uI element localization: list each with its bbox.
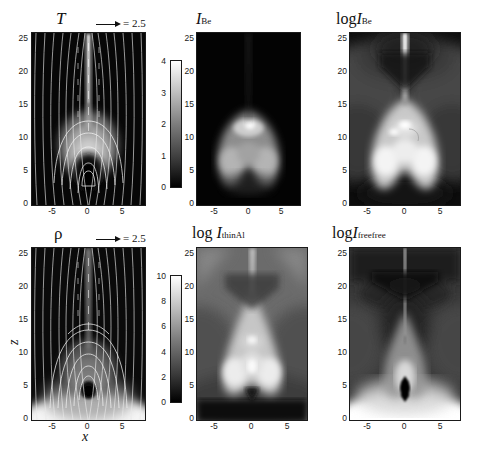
xtick-log-intensity-freefree-m5: -5 (357, 421, 377, 431)
xtick-intensity-be-5: 5 (271, 206, 291, 216)
panel-title-temperature: T (56, 9, 65, 29)
cbtick-density-10: 10 (145, 271, 166, 281)
vector-key-temperature: = 2.5 (96, 17, 146, 29)
cbtick-temperature-0: 0 (150, 182, 166, 192)
ytick-temperature-25: 25 (8, 33, 28, 43)
panel-title-log-intensity-freefree: logIfreefree (332, 224, 386, 242)
ytick-log-intensity-thinal-15: 15 (174, 314, 194, 324)
ytick-log-intensity-be-15: 15 (327, 99, 347, 109)
ytick-log-intensity-freefree-5: 5 (327, 380, 347, 390)
xtick-intensity-be-m5: -5 (204, 206, 224, 216)
plot-area-log-intensity-be (349, 32, 461, 206)
ytick-intensity-be-0: 0 (174, 198, 194, 208)
ytick-temperature-10: 10 (8, 132, 28, 142)
ytick-log-intensity-be-25: 25 (327, 33, 347, 43)
xtick-density-m5: -5 (42, 421, 62, 431)
ytick-intensity-be-5: 5 (174, 165, 194, 175)
plot-area-density (31, 247, 146, 421)
xtick-log-intensity-freefree-5: 5 (430, 421, 450, 431)
vector-key-density: = 2.5 (96, 232, 146, 244)
xtick-temperature-0: 0 (77, 206, 97, 216)
xtick-temperature-5: 5 (112, 206, 132, 216)
ytick-log-intensity-be-5: 5 (327, 165, 347, 175)
xtick-log-intensity-thinal-5: 5 (277, 421, 297, 431)
xtick-density-5: 5 (112, 421, 132, 431)
cbtick-density-0: 0 (148, 397, 166, 407)
ytick-temperature-20: 20 (8, 66, 28, 76)
ytick-log-intensity-thinal-10: 10 (174, 347, 194, 357)
ytick-log-intensity-freefree-25: 25 (327, 248, 347, 258)
ytick-density-0: 0 (8, 413, 28, 423)
ytick-log-intensity-thinal-0: 0 (174, 413, 194, 423)
ytick-density-25: 25 (8, 248, 28, 258)
ytick-temperature-15: 15 (8, 99, 28, 109)
cbtick-temperature-2: 2 (150, 119, 166, 129)
cbtick-temperature-3: 3 (150, 88, 166, 98)
plot-area-log-intensity-freefree (349, 247, 461, 421)
ytick-log-intensity-freefree-10: 10 (327, 347, 347, 357)
ytick-log-intensity-be-0: 0 (327, 198, 347, 208)
arrow-icon (96, 21, 122, 28)
ytick-density-15: 15 (8, 314, 28, 324)
xtick-intensity-be-0: 0 (238, 206, 258, 216)
ytick-log-intensity-thinal-20: 20 (174, 281, 194, 291)
cbtick-temperature-4: 4 (150, 56, 166, 66)
ytick-log-intensity-freefree-0: 0 (327, 413, 347, 423)
ytick-temperature-5: 5 (8, 165, 28, 175)
xtick-log-intensity-thinal-0: 0 (241, 421, 261, 431)
cbtick-density-6: 6 (148, 321, 166, 331)
xtick-log-intensity-be-0: 0 (394, 206, 414, 216)
ytick-log-intensity-be-10: 10 (327, 132, 347, 142)
cbtick-temperature-1: 1 (150, 151, 166, 161)
figure-panel-grid: T = 2.5 (0, 0, 478, 456)
ytick-intensity-be-20: 20 (174, 66, 194, 76)
xtick-log-intensity-be-m5: -5 (357, 206, 377, 216)
xtick-temperature-m5: -5 (42, 206, 62, 216)
xtick-log-intensity-be-5: 5 (430, 206, 450, 216)
xtick-log-intensity-freefree-0: 0 (394, 421, 414, 431)
ytick-log-intensity-thinal-25: 25 (174, 248, 194, 258)
panel-title-density: ρ (54, 224, 62, 244)
arrow-icon (96, 236, 122, 243)
ytick-intensity-be-15: 15 (174, 99, 194, 109)
cbtick-density-8: 8 (148, 296, 166, 306)
ytick-temperature-0: 0 (8, 198, 28, 208)
plot-area-intensity-be (196, 32, 301, 206)
ytick-log-intensity-freefree-20: 20 (327, 281, 347, 291)
cbtick-density-2: 2 (148, 372, 166, 382)
cbtick-density-4: 4 (148, 347, 166, 357)
ytick-density-10: 10 (8, 347, 28, 357)
ytick-intensity-be-25: 25 (174, 33, 194, 43)
ytick-log-intensity-be-20: 20 (327, 66, 347, 76)
ytick-density-20: 20 (8, 281, 28, 291)
ytick-log-intensity-thinal-5: 5 (174, 380, 194, 390)
panel-title-log-intensity-be: logIBe (336, 10, 372, 28)
ytick-log-intensity-freefree-15: 15 (327, 314, 347, 324)
plot-area-log-intensity-thinal (196, 247, 308, 421)
xtick-log-intensity-thinal-m5: -5 (204, 421, 224, 431)
x-axis-label: x (82, 429, 88, 445)
panel-title-intensity-be: IBe (196, 10, 211, 28)
y-axis-label: z (6, 340, 22, 345)
ytick-density-5: 5 (8, 380, 28, 390)
plot-area-temperature (31, 32, 146, 206)
ytick-intensity-be-10: 10 (174, 132, 194, 142)
panel-title-log-intensity-thinal: log IthinAl (192, 224, 245, 242)
